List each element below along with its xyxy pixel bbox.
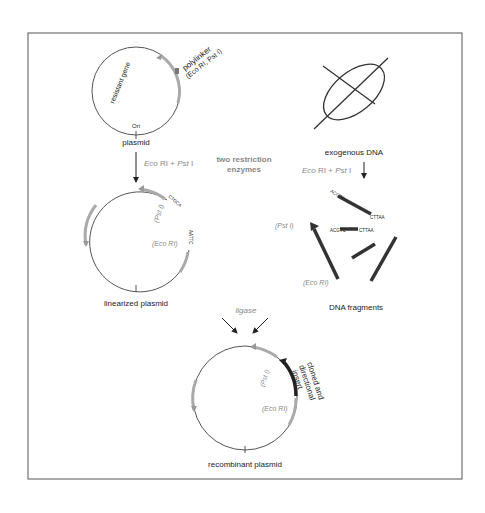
dna-fragments	[310, 196, 396, 281]
resistant-gene-label: resistant gene	[108, 61, 132, 105]
recombinant-plasmid-label: recombinant plasmid	[208, 460, 282, 469]
exogenous-dna-icon	[314, 54, 395, 131]
ori-label: Ori	[132, 123, 140, 129]
recombinant-plasmid-circle	[191, 343, 297, 453]
frag-seq-1: ACGTC	[330, 189, 347, 202]
linearized-plasmid-label: linearized plasmid	[104, 299, 168, 308]
pst-seq-linear: CTGCA	[167, 194, 182, 208]
frag-seq-3: ACGTC	[330, 228, 347, 233]
pst-label-linear: (Pst I)	[152, 203, 165, 223]
cloning-diagram: Ori plasmid resistant gene polylinker (E…	[0, 0, 485, 513]
arrow-ligase-right	[253, 318, 268, 333]
eco-label-recomb: (Eco RI)	[262, 405, 288, 413]
eco-label-linear: (Eco RI)	[152, 240, 178, 248]
ligase-label: ligase	[236, 306, 257, 315]
arrow-ligase-left	[222, 318, 237, 333]
exogenous-dna-label: exogenous DNA	[325, 148, 384, 157]
enzymes-label: enzymes	[227, 165, 261, 174]
eco-label-frag: (Eco RI)	[303, 279, 329, 287]
pst-label-recomb: (Pst I)	[258, 369, 271, 388]
enzymes-left-label: Eco RI + Pst I	[144, 159, 193, 168]
dna-fragments-label: DNA fragments	[329, 303, 383, 312]
frag-seq-4: CTTAA	[359, 228, 373, 233]
pst-label-frag: (Pst I)	[275, 222, 294, 230]
enzymes-right-label: Eco RI + Pst I	[302, 166, 351, 175]
eco-seq-linear: AATTC	[188, 230, 193, 245]
plasmid-label: plasmid	[122, 138, 150, 147]
frag-seq-2: CTTAA	[370, 215, 384, 220]
two-restriction-label: two restriction	[216, 155, 271, 164]
